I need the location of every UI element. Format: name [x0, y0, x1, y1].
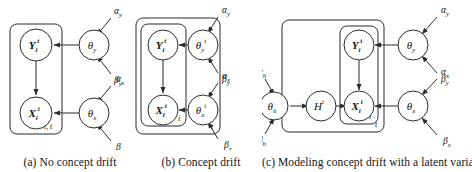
panel-b: t i Yit Xit [132, 0, 270, 172]
caption-a: (a) No concept drift [0, 156, 140, 168]
hyper-beta-x: βx [223, 140, 233, 150]
plate-i-label: i [178, 114, 180, 123]
hyper-beta-x: βx [442, 136, 452, 149]
hyper-alpha-y: αy [441, 5, 450, 18]
node-Y: Yit [344, 30, 374, 60]
node-theta-y: θy [398, 30, 428, 60]
panel-c-graph: t i θh [262, 0, 472, 150]
hyper-alpha-y: αy [114, 6, 123, 19]
edge-betax-to-thetax [422, 118, 437, 135]
panel-b-graph: t i Yit Xit [132, 0, 270, 150]
hyper-beta-x: βy [115, 142, 125, 150]
figure-container: i, t Yit Xit [0, 0, 472, 172]
edge-alphax-to-thetax [422, 79, 437, 95]
caption-b: (b) Concept drift [132, 156, 270, 168]
edge-betay-to-thetay [208, 57, 218, 73]
edge-alphay-to-thetay [208, 17, 218, 33]
node-theta-x: θxt [188, 95, 218, 125]
node-theta-y: θyt [188, 30, 218, 60]
node-Y: Yit [148, 30, 178, 60]
node-Y: Yit [20, 29, 52, 61]
node-H: Ht [306, 91, 336, 121]
edge-betay-to-thetay [422, 56, 437, 73]
node-X: Xit [20, 97, 52, 129]
hyper-alpha-y: αy [222, 5, 231, 18]
caption-c: (c) Modeling concept drift with a latent… [262, 156, 472, 168]
panel-a-graph: i, t Yit Xit [0, 0, 140, 150]
node-X: Xit [148, 95, 178, 125]
edge-alphax-to-thetax [208, 83, 218, 98]
node-theta-x: θx [79, 98, 109, 128]
edge-alphay-to-thetay [422, 17, 437, 34]
hyper-beta-h: βh [262, 135, 267, 148]
node-theta-x: θx [398, 91, 428, 121]
node-X: Xit [344, 91, 374, 121]
panel-c: t i θh [262, 0, 472, 172]
node-theta-y: θy [79, 30, 109, 60]
node-theta-h: θh [262, 92, 288, 120]
panel-a: i, t Yit Xit [0, 0, 140, 172]
hyper-alpha-h: αh [262, 67, 267, 80]
